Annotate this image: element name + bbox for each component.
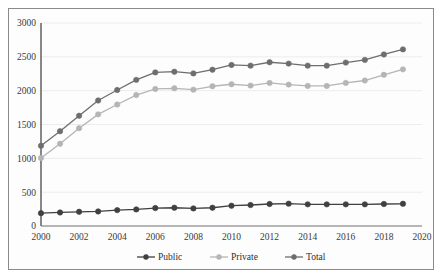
x-tick-label: 2014 [298, 232, 317, 242]
data-point [57, 210, 62, 215]
data-point [134, 77, 139, 82]
data-point [343, 60, 348, 65]
y-tick-label: 0 [31, 221, 36, 231]
data-point [172, 205, 177, 210]
data-point [229, 62, 234, 67]
data-point [191, 87, 196, 92]
chart-legend: PublicPrivateTotal [137, 252, 326, 262]
data-point [210, 84, 215, 89]
legend-item-total[interactable]: Total [285, 252, 326, 262]
data-point [38, 210, 43, 215]
data-point [76, 126, 81, 131]
legend-marker-icon [216, 254, 221, 259]
x-tick-label: 2020 [413, 232, 432, 242]
data-point [115, 207, 120, 212]
x-tick-label: 2000 [32, 232, 51, 242]
data-point [286, 82, 291, 87]
data-point [267, 80, 272, 85]
data-point [324, 63, 329, 68]
data-point [76, 113, 81, 118]
data-point [95, 112, 100, 117]
legend-marker-icon [143, 254, 148, 259]
data-point [38, 143, 43, 148]
data-point [267, 60, 272, 65]
data-point [57, 129, 62, 134]
data-point [400, 47, 405, 52]
legend-item-private[interactable]: Private [210, 252, 258, 262]
data-point [343, 202, 348, 207]
data-point [324, 202, 329, 207]
data-point [286, 201, 291, 206]
x-tick-label: 2012 [260, 232, 279, 242]
series-total [38, 47, 405, 149]
data-point [57, 141, 62, 146]
data-point [362, 78, 367, 83]
data-point [191, 206, 196, 211]
data-point [172, 69, 177, 74]
data-point [95, 98, 100, 103]
data-point [248, 202, 253, 207]
data-point [115, 87, 120, 92]
data-point [38, 155, 43, 160]
legend-label: Private [231, 252, 258, 262]
data-point [248, 63, 253, 68]
data-point [153, 86, 158, 91]
series-public [38, 201, 405, 216]
data-point [229, 82, 234, 87]
data-point [95, 209, 100, 214]
y-tick-label: 2500 [17, 52, 36, 62]
chart-svg: 050010001500200025003000 200020022004200… [0, 0, 444, 278]
data-point [115, 102, 120, 107]
data-point [134, 207, 139, 212]
data-point [210, 205, 215, 210]
y-tick-label: 2000 [17, 86, 36, 96]
data-point [191, 71, 196, 76]
data-point [76, 209, 81, 214]
series-private [38, 67, 405, 161]
x-tick-label: 2006 [146, 232, 165, 242]
data-point [248, 83, 253, 88]
y-tick-label: 1500 [17, 120, 36, 130]
data-point [362, 57, 367, 62]
y-tick-label: 1000 [17, 154, 36, 164]
data-point [153, 70, 158, 75]
data-point [343, 80, 348, 85]
data-point [400, 201, 405, 206]
x-tick-label: 2002 [70, 232, 89, 242]
legend-label: Public [158, 252, 182, 262]
data-point [134, 92, 139, 97]
y-tick-label: 500 [22, 188, 37, 198]
data-point [305, 63, 310, 68]
x-tick-label: 2008 [184, 232, 203, 242]
x-tick-label: 2010 [222, 232, 241, 242]
data-point [153, 205, 158, 210]
legend-item-public[interactable]: Public [137, 252, 182, 262]
data-point [362, 202, 367, 207]
data-point [305, 202, 310, 207]
x-tick-label: 2016 [336, 232, 355, 242]
data-point [381, 201, 386, 206]
x-tick-label: 2004 [108, 232, 127, 242]
data-point [267, 201, 272, 206]
data-point [400, 67, 405, 72]
y-tick-label: 3000 [17, 18, 36, 28]
series-line [41, 49, 403, 145]
data-point [210, 67, 215, 72]
data-series-layer [38, 47, 405, 216]
x-tick-label: 2018 [374, 232, 393, 242]
data-point [172, 86, 177, 91]
data-point [381, 72, 386, 77]
y-axis-tick-labels: 050010001500200025003000 [17, 18, 36, 231]
data-point [286, 61, 291, 66]
line-chart: 050010001500200025003000 200020022004200… [0, 0, 444, 278]
data-point [381, 52, 386, 57]
gridlines [41, 23, 422, 226]
legend-marker-icon [291, 254, 296, 259]
data-point [305, 83, 310, 88]
x-axis-tick-labels: 2000200220042006200820102012201420162018… [32, 232, 432, 242]
legend-label: Total [306, 252, 326, 262]
data-point [324, 83, 329, 88]
data-point [229, 203, 234, 208]
